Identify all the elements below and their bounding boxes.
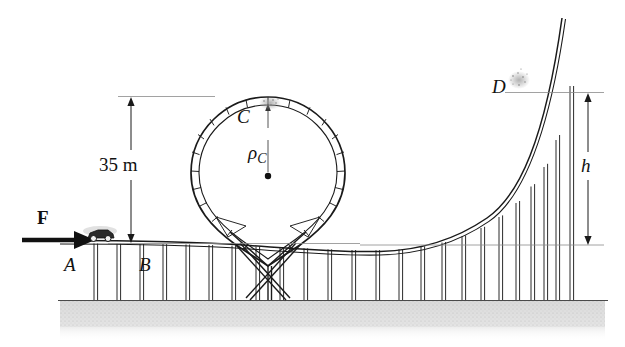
post-group-right [399,86,574,300]
point-d-marker [508,68,530,89]
point-a-label: A [64,254,76,276]
point-c-marker [259,96,281,110]
force-arrow [22,231,95,249]
height-h-label: h [581,155,591,177]
loop-center-point [265,173,271,179]
car-wheel-front [105,236,111,242]
roller-coaster-diagram [0,0,625,347]
ground-texture [60,301,605,327]
force-label: F [37,207,49,229]
loop-radius-label: ρC [248,142,266,167]
loop-rail-inner [199,105,337,259]
reference-lines [108,93,604,246]
ground [58,301,608,342]
track-rail-lower [60,19,566,255]
rho-symbol: ρ [248,142,257,163]
rho-subscript: C [257,151,266,166]
point-d-label: D [492,76,506,98]
post-group-left [94,244,380,301]
loop-height-dimension-label: 35 m [99,154,138,176]
car-wheel-rear [91,236,97,242]
loop-legs [230,232,306,300]
point-b-label: B [139,254,151,276]
track-rail-upper [60,18,562,252]
point-c-label: C [237,106,250,128]
dim-h-arrowhead-bottom [584,236,591,245]
